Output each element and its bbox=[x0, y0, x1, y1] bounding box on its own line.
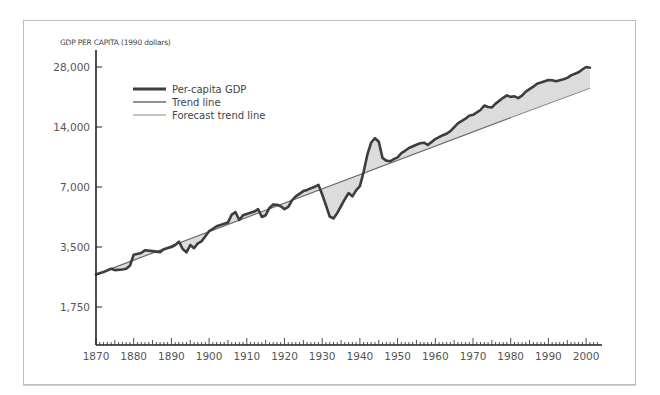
x-tick-label: 2000 bbox=[573, 350, 600, 362]
legend-label-trend: Trend line bbox=[171, 97, 221, 108]
x-tick-label: 1890 bbox=[158, 350, 185, 362]
x-tick-label: 1920 bbox=[271, 350, 298, 362]
legend-label-gdp: Per-capita GDP bbox=[172, 84, 246, 95]
y-tick-label: 14,000 bbox=[53, 121, 90, 133]
y-tick-label: 1,750 bbox=[60, 301, 90, 313]
x-tick-label: 1960 bbox=[422, 350, 449, 362]
x-tick-label: 1900 bbox=[196, 350, 223, 362]
x-tick-label: 1950 bbox=[384, 350, 411, 362]
x-tick-label: 1910 bbox=[233, 350, 260, 362]
y-tick-label: 7,000 bbox=[60, 181, 90, 193]
legend: Per-capita GDP Trend line Forecast trend… bbox=[133, 84, 265, 121]
gdp-line bbox=[96, 67, 590, 274]
y-tick-label: 3,500 bbox=[60, 241, 90, 253]
gdp-chart: GDP PER CAPITA (1990 dollars) 28,00014,0… bbox=[0, 0, 660, 395]
x-tick-label: 1870 bbox=[83, 350, 110, 362]
x-tick-label: 1940 bbox=[347, 350, 374, 362]
x-tick-label: 1970 bbox=[460, 350, 487, 362]
y-tick-label: 28,000 bbox=[53, 61, 90, 73]
x-tick-label: 1930 bbox=[309, 350, 336, 362]
gdp-series bbox=[96, 67, 590, 274]
x-tick-label: 1880 bbox=[120, 350, 147, 362]
legend-label-forecast: Forecast trend line bbox=[172, 110, 265, 121]
x-tick-label: 1990 bbox=[535, 350, 562, 362]
y-axis-title: GDP PER CAPITA (1990 dollars) bbox=[60, 38, 171, 47]
x-tick-label: 1980 bbox=[497, 350, 524, 362]
